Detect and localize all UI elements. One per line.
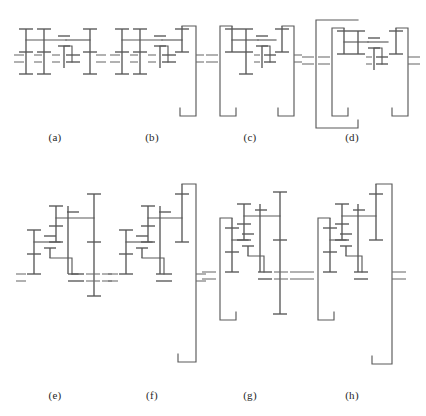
gear-diagram-g: [202, 172, 300, 338]
gear-diagram-e: [16, 176, 112, 322]
gear-diagram-d: [302, 12, 422, 136]
outer-housing-bracket: [316, 20, 358, 128]
ring-gear-bracket-right: [372, 184, 392, 364]
ring-gear-bracket-right: [392, 28, 408, 116]
gear-diagram-b: [110, 16, 204, 128]
ring-gear-bracket-left: [332, 28, 348, 116]
caption-a: (a): [35, 131, 75, 143]
gear-schematic-g-svg: [202, 172, 300, 338]
ring-gear-bracket-left: [318, 218, 334, 320]
gear-diagram-h: [300, 170, 412, 376]
ring-gear-bracket-left: [220, 218, 236, 320]
gear-schematic-h-svg: [300, 170, 412, 376]
caption-h: (h): [332, 389, 372, 401]
caption-e: (e): [35, 389, 75, 401]
caption-c: (c): [230, 131, 270, 143]
gear-diagram-a: [14, 22, 106, 98]
gear-diagram-c: [206, 16, 302, 128]
offset-carrier: [160, 46, 168, 62]
gear-diagram-f: [108, 170, 206, 374]
caption-g: (g): [230, 389, 270, 401]
gear-schematic-c-svg: [206, 16, 302, 128]
ring-gear-bracket-right: [178, 184, 196, 362]
gear-schematic-e-svg: [16, 176, 112, 322]
figure-sheet: (a): [0, 0, 426, 416]
ring-gear-bracket-right: [278, 26, 294, 116]
gear-schematic-a-svg: [14, 22, 106, 98]
caption-d: (d): [332, 131, 372, 143]
gear-schematic-b-svg: [110, 16, 204, 128]
stepped-carrier-1: [50, 258, 72, 274]
stepped-carrier-1: [346, 256, 362, 272]
offset-carrier: [262, 46, 270, 62]
stepped-carrier-1: [142, 258, 164, 274]
offset-carrier: [64, 46, 72, 62]
offset-carrier: [374, 48, 382, 64]
gear-schematic-f-svg: [108, 170, 206, 374]
gear-schematic-d-svg: [302, 12, 422, 136]
caption-f: (f): [132, 389, 172, 401]
stepped-carrier-1: [248, 256, 264, 272]
caption-b: (b): [132, 131, 172, 143]
